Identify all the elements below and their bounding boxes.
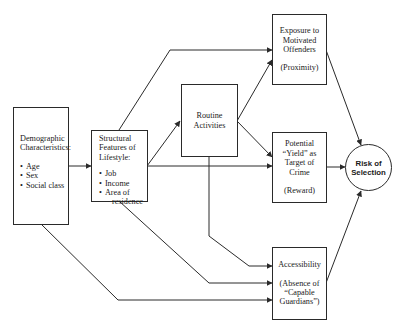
list-item: Age — [20, 162, 68, 171]
risk-line-2: Selection — [351, 168, 386, 177]
list-item: residence — [99, 197, 147, 206]
demographic-title-1: Demographic — [20, 134, 68, 143]
structural-list: Job Income Area of residence — [99, 169, 147, 207]
exposure-line-1: Exposure to — [280, 26, 319, 35]
potential-sub: (Reward) — [284, 186, 315, 195]
potential-line-1: Potential — [285, 139, 314, 148]
edge-structural-routine — [147, 121, 180, 166]
edge-routine-potential — [237, 121, 272, 157]
edge-accessibility-risk — [326, 191, 361, 283]
exposure-line-3: Offenders — [283, 45, 316, 54]
list-item: Income — [99, 179, 147, 188]
risk-line-1: Risk of — [356, 159, 382, 168]
structural-title-1: Structural — [99, 134, 147, 143]
node-demographic: Demographic Characteristics: Age Sex Soc… — [13, 107, 69, 225]
node-potential: Potential “Yield” as Target of Crime (Re… — [272, 132, 327, 203]
node-risk-of-selection: Risk of Selection — [345, 144, 392, 191]
potential-line-3: Target of — [285, 158, 315, 167]
list-item: Job — [99, 169, 147, 178]
list-item: Area of — [99, 188, 147, 197]
edge-exposure-risk — [326, 50, 361, 145]
routine-line-2: Activities — [194, 121, 226, 130]
list-item: Sex — [20, 171, 68, 180]
exposure-sub: (Proximity) — [280, 63, 318, 72]
edge-routine-exposure — [237, 60, 272, 121]
node-structural: Structural Features of Lifestyle: Job In… — [91, 130, 148, 202]
structural-title-2: Features of — [99, 143, 147, 152]
structural-title-3: Lifestyle: — [99, 153, 147, 162]
demographic-title-2: Characteristics: — [20, 143, 68, 152]
accessibility-sub-2: “Capable — [284, 288, 314, 297]
edge-routine-accessibility — [209, 156, 272, 266]
exposure-line-2: Motivated — [283, 36, 317, 45]
potential-line-2: “Yield” as — [283, 149, 317, 158]
potential-line-4: Crime — [289, 168, 309, 177]
list-item: Social class — [20, 181, 68, 190]
accessibility-line-1: Accessibility — [278, 260, 321, 269]
routine-line-1: Routine — [197, 111, 223, 120]
accessibility-sub-1: (Absence of — [280, 279, 320, 288]
demographic-list: Age Sex Social class — [20, 162, 68, 190]
node-routine: Routine Activities — [181, 84, 238, 157]
edge-structural-accessibility — [119, 201, 272, 283]
accessibility-sub-3: Guardians”) — [279, 297, 319, 306]
node-accessibility: Accessibility (Absence of “Capable Guard… — [272, 247, 327, 320]
node-exposure: Exposure to Motivated Offenders (Proximi… — [272, 14, 327, 85]
